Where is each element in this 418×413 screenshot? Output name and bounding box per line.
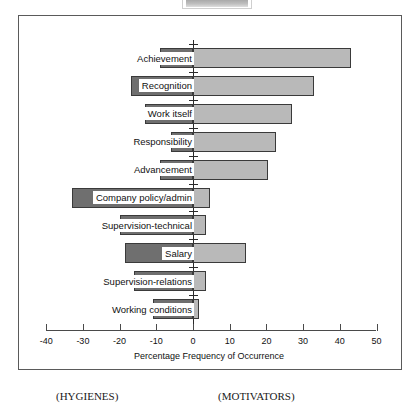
category-label: Advancement	[131, 163, 194, 176]
bar-row	[0, 299, 418, 319]
bar-row	[0, 160, 418, 180]
x-axis-tick-label: 20	[251, 336, 281, 346]
category-label: Achievement	[134, 52, 194, 65]
x-axis-tick-label: 0	[178, 336, 208, 346]
x-axis-tick	[193, 324, 194, 331]
bar-row	[0, 188, 418, 208]
x-axis-tick-label: -30	[68, 336, 98, 346]
bar-row	[0, 243, 418, 263]
herzberg-two-factor-chart-figure: AchievementRecognitionWork itselfRespons…	[0, 0, 418, 413]
x-axis-tick	[230, 324, 231, 331]
motivator-bar	[193, 48, 351, 68]
motivator-bar	[193, 188, 210, 208]
x-axis-tick-label: -10	[141, 336, 171, 346]
category-label: Supervision-relations	[100, 275, 194, 288]
category-label: Supervision-technical	[99, 219, 194, 232]
x-axis-tick	[266, 324, 267, 331]
category-label: Company policy/admin	[93, 191, 194, 204]
zero-axis-tick	[189, 128, 198, 129]
bar-row	[0, 76, 418, 96]
x-axis-tick-label: 10	[215, 336, 245, 346]
motivator-bar	[193, 104, 292, 124]
category-label: Salary	[162, 247, 194, 260]
zero-axis-tick	[189, 72, 198, 73]
zero-axis-tick	[189, 44, 198, 45]
x-axis-tick-label: 50	[362, 336, 392, 346]
x-axis-tick-label: 40	[325, 336, 355, 346]
x-axis-title: Percentage Frequency of Occurrence	[0, 351, 418, 361]
motivator-bar	[193, 243, 246, 263]
motivator-bar	[193, 160, 268, 180]
bar-row	[0, 48, 418, 68]
bar-row	[0, 104, 418, 124]
bar-row	[0, 271, 418, 291]
motivator-bar	[193, 76, 314, 96]
x-axis-tick-label: -20	[105, 336, 135, 346]
x-axis-tick-label: 30	[288, 336, 318, 346]
zero-axis-tick	[189, 267, 198, 268]
zero-axis-tick	[189, 239, 198, 240]
bar-row	[0, 132, 418, 152]
x-axis-tick	[303, 324, 304, 331]
bar-row	[0, 215, 418, 235]
zero-axis-tick	[189, 100, 198, 101]
caption-motivators: (MOTIVATORS)	[218, 390, 295, 402]
motivator-bar	[193, 132, 276, 152]
motivator-bar	[193, 215, 206, 235]
x-axis-line	[46, 330, 376, 331]
x-axis-tick	[120, 324, 121, 331]
category-label: Recognition	[139, 79, 194, 92]
x-axis-tick	[340, 324, 341, 331]
x-axis-tick	[46, 324, 47, 331]
category-label: Responsibility	[130, 135, 194, 148]
category-label: Working conditions	[109, 303, 194, 316]
plot-area: AchievementRecognitionWork itselfRespons…	[0, 0, 418, 413]
zero-axis-tick	[189, 156, 198, 157]
x-axis-tick	[377, 324, 378, 331]
zero-axis-tick	[189, 211, 198, 212]
motivator-bar	[193, 271, 206, 291]
x-axis-tick	[83, 324, 84, 331]
category-label: Work itself	[145, 107, 194, 120]
zero-axis-tick	[189, 295, 198, 296]
zero-axis-tick	[189, 184, 198, 185]
caption-hygienes: (HYGIENES)	[56, 390, 118, 402]
x-axis-tick-label: -40	[31, 336, 61, 346]
x-axis-tick	[156, 324, 157, 331]
